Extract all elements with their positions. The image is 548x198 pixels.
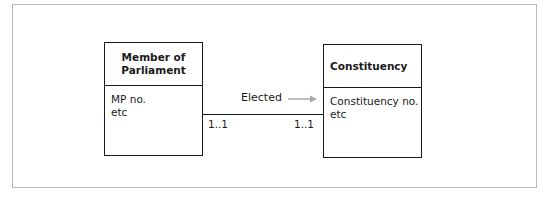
- right-arrow-icon: [288, 94, 318, 104]
- entity-title: Constituency: [330, 60, 407, 73]
- entity-header: Constituency: [324, 45, 421, 88]
- cardinality-right: 1..1: [294, 118, 314, 131]
- entity-title: Member of Parliament: [121, 51, 186, 77]
- entity-header: Member of Parliament: [105, 43, 202, 86]
- attribute: etc: [111, 106, 202, 119]
- entity-attributes: MP no. etc: [105, 86, 202, 155]
- relationship-label: Elected: [241, 91, 282, 104]
- entity-member-of-parliament: Member of Parliament MP no. etc: [104, 42, 203, 156]
- relationship-line: [203, 114, 323, 115]
- attribute: etc: [330, 108, 421, 121]
- entity-constituency: Constituency Constituency no. etc: [323, 44, 422, 158]
- entity-attributes: Constituency no. etc: [324, 88, 421, 157]
- attribute: MP no.: [111, 93, 202, 106]
- attribute: Constituency no.: [330, 95, 421, 108]
- cardinality-left: 1..1: [208, 118, 228, 131]
